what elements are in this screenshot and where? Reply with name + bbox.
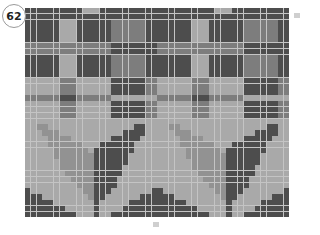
chart-cell xyxy=(31,84,36,89)
chart-cell xyxy=(25,136,30,141)
chart-cell xyxy=(152,49,157,54)
chart-cell xyxy=(198,124,203,129)
chart-cell xyxy=(71,107,76,112)
chart-cell xyxy=(244,25,249,30)
chart-cell xyxy=(284,124,289,129)
chart-cell xyxy=(267,95,272,100)
chart-cell xyxy=(169,72,174,77)
chart-cell xyxy=(238,31,243,36)
chart-cell xyxy=(180,188,185,193)
chart-cell xyxy=(209,20,214,25)
chart-cell xyxy=(238,142,243,147)
chart-cell xyxy=(244,60,249,65)
chart-cell xyxy=(226,14,231,19)
chart-cell xyxy=(255,183,260,188)
chart-cell xyxy=(215,89,220,94)
chart-cell xyxy=(267,37,272,42)
chart-cell xyxy=(88,72,93,77)
chart-cell xyxy=(146,43,151,48)
chart-cell xyxy=(198,60,203,65)
chart-cell xyxy=(134,89,139,94)
chart-cell xyxy=(134,153,139,158)
chart-cell xyxy=(65,84,70,89)
chart-cell xyxy=(152,60,157,65)
chart-cell xyxy=(203,84,208,89)
chart-cell xyxy=(123,194,128,199)
chart-cell xyxy=(65,37,70,42)
chart-cell xyxy=(249,95,254,100)
chart-cell xyxy=(77,84,82,89)
chart-cell xyxy=(238,107,243,112)
chart-cell xyxy=(88,66,93,71)
chart-cell xyxy=(117,101,122,106)
chart-cell xyxy=(25,153,30,158)
chart-cell xyxy=(140,183,145,188)
chart-cell xyxy=(83,14,88,19)
chart-cell xyxy=(100,113,105,118)
chart-cell xyxy=(71,25,76,30)
chart-cell xyxy=(71,200,76,205)
chart-cell xyxy=(169,165,174,170)
chart-cell xyxy=(65,95,70,100)
chart-cell xyxy=(117,55,122,60)
chart-cell xyxy=(71,171,76,176)
chart-cell xyxy=(272,95,277,100)
chart-cell xyxy=(100,72,105,77)
chart-cell xyxy=(203,72,208,77)
chart-cell xyxy=(65,49,70,54)
chart-cell xyxy=(134,165,139,170)
chart-cell xyxy=(42,165,47,170)
chart-cell xyxy=(117,159,122,164)
chart-cell xyxy=(157,148,162,153)
chart-cell xyxy=(215,177,220,182)
chart-cell xyxy=(209,130,214,135)
chart-cell xyxy=(186,31,191,36)
chart-cell xyxy=(60,206,65,211)
chart-cell xyxy=(226,49,231,54)
chart-cell xyxy=(169,49,174,54)
chart-cell xyxy=(83,119,88,124)
chart-cell xyxy=(249,159,254,164)
chart-cell xyxy=(175,124,180,129)
chart-cell xyxy=(25,183,30,188)
chart-cell xyxy=(31,206,36,211)
chart-cell xyxy=(117,188,122,193)
chart-cell xyxy=(226,136,231,141)
chart-cell xyxy=(249,113,254,118)
chart-cell xyxy=(198,49,203,54)
chart-cell xyxy=(272,20,277,25)
chart-cell xyxy=(232,66,237,71)
chart-cell xyxy=(152,89,157,94)
chart-cell xyxy=(267,84,272,89)
chart-cell xyxy=(186,78,191,83)
chart-cell xyxy=(140,206,145,211)
chart-cell xyxy=(203,142,208,147)
chart-cell xyxy=(169,171,174,176)
chart-cell xyxy=(221,55,226,60)
chart-cell xyxy=(65,136,70,141)
chart-cell xyxy=(198,66,203,71)
chart-cell xyxy=(94,66,99,71)
chart-cell xyxy=(284,183,289,188)
chart-cell xyxy=(31,153,36,158)
chart-cell xyxy=(42,130,47,135)
chart-cell xyxy=(100,107,105,112)
chart-cell xyxy=(94,72,99,77)
chart-cell xyxy=(226,20,231,25)
chart-cell xyxy=(192,25,197,30)
chart-cell xyxy=(117,119,122,124)
chart-cell xyxy=(284,55,289,60)
chart-cell xyxy=(146,165,151,170)
chart-cell xyxy=(244,188,249,193)
chart-cell xyxy=(60,153,65,158)
chart-cell xyxy=(60,130,65,135)
chart-cell xyxy=(169,31,174,36)
chart-cell xyxy=(71,20,76,25)
chart-cell xyxy=(152,153,157,158)
chart-cell xyxy=(226,148,231,153)
chart-cell xyxy=(65,89,70,94)
chart-cell xyxy=(198,107,203,112)
chart-cell xyxy=(221,84,226,89)
chart-cell xyxy=(180,206,185,211)
chart-cell xyxy=(221,25,226,30)
